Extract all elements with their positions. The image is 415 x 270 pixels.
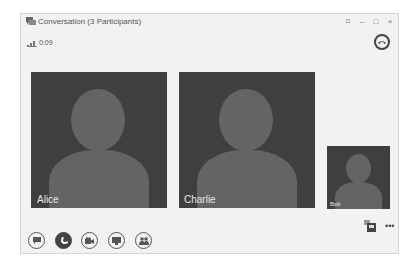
participant-tile-bob[interactable]: Bob (327, 146, 390, 209)
conversation-icon (26, 17, 36, 26)
participants-button[interactable] (135, 232, 152, 249)
popout-button[interactable]: ⌑ (343, 17, 353, 27)
people-icon (139, 237, 149, 245)
window-title: Conversation (3 Participants) (38, 17, 141, 26)
avatar-body (49, 150, 149, 208)
participant-name: Alice (37, 194, 59, 205)
minimize-button[interactable]: – (357, 17, 367, 27)
monitor-icon (112, 237, 121, 245)
participant-tile-charlie[interactable]: Charlie (179, 72, 315, 208)
phone-icon (60, 237, 68, 245)
avatar-head (219, 89, 273, 151)
video-button[interactable] (81, 232, 98, 249)
video-camera-icon (85, 237, 94, 244)
maximize-button[interactable]: □ (371, 17, 381, 27)
avatar-head (346, 154, 371, 183)
call-timer: 0:09 (39, 39, 53, 46)
phone-hangup-icon (376, 36, 388, 48)
more-options-button[interactable]: ••• (385, 223, 394, 229)
participant-tile-alice[interactable]: Alice (31, 72, 167, 208)
im-button[interactable] (28, 232, 45, 249)
close-button[interactable]: × (385, 17, 395, 27)
present-button[interactable] (108, 232, 125, 249)
audio-call-button[interactable] (55, 232, 72, 249)
chat-bubble-icon (33, 237, 41, 245)
conversation-window: Conversation (3 Participants) ⌑ – □ × 0:… (20, 13, 399, 254)
avatar-head (71, 89, 125, 151)
content-share-icon[interactable] (364, 220, 376, 232)
call-quality-icon (27, 40, 37, 47)
title-bar[interactable]: Conversation (3 Participants) ⌑ – □ × (21, 14, 398, 32)
hang-up-button[interactable] (374, 34, 390, 50)
avatar-body (335, 182, 382, 209)
participant-name: Bob (330, 201, 341, 207)
participant-name: Charlie (184, 194, 216, 205)
